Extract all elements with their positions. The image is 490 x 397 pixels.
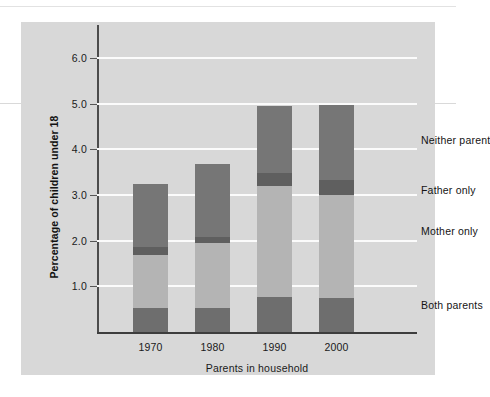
bar-segment xyxy=(133,255,168,308)
bar-segment xyxy=(195,243,230,308)
bar-segment xyxy=(195,164,230,237)
x-axis-line xyxy=(97,332,417,334)
y-axis-tick-label: 4.0 xyxy=(72,143,87,155)
y-axis-tick xyxy=(90,58,97,59)
y-axis-tick xyxy=(90,104,97,105)
legend-label: Father only xyxy=(421,184,476,196)
y-axis-tick xyxy=(90,149,97,150)
y-axis-tick xyxy=(90,286,97,287)
bar-segment xyxy=(133,308,168,332)
bar-segment xyxy=(257,173,292,187)
bar-segment xyxy=(319,180,354,195)
bar-segment xyxy=(133,184,168,247)
x-axis-tick-label: 1980 xyxy=(183,341,243,353)
chart-figure: Percentage of children under 18 1.02.03.… xyxy=(21,22,435,375)
x-axis-tick-label: 2000 xyxy=(307,341,367,353)
legend-label: Mother only xyxy=(421,225,478,237)
legend-label: Both parents xyxy=(421,299,483,311)
bar-segment xyxy=(133,247,168,255)
y-axis-tick-label: 2.0 xyxy=(72,235,87,247)
stacked-bar xyxy=(319,29,354,332)
stacked-bar xyxy=(195,29,230,332)
y-axis-tick xyxy=(90,241,97,242)
stacked-bar xyxy=(257,29,292,332)
y-axis-title: Percentage of children under 18 xyxy=(48,116,60,279)
bar-segment xyxy=(319,195,354,298)
bar-segment xyxy=(257,106,292,173)
legend-label: Neither parent xyxy=(421,134,490,146)
stacked-bar xyxy=(133,29,168,332)
scan-artifact-line-top xyxy=(0,6,456,7)
x-axis-tick-label: 1990 xyxy=(245,341,305,353)
x-axis-tick-label: 1970 xyxy=(121,341,181,353)
bar-segment xyxy=(195,237,230,242)
y-axis-tick-label: 1.0 xyxy=(72,280,87,292)
y-axis-tick-label: 3.0 xyxy=(72,189,87,201)
y-axis-tick xyxy=(90,195,97,196)
y-axis-tick-label: 5.0 xyxy=(72,98,87,110)
bar-segment xyxy=(319,105,354,180)
bar-segment xyxy=(257,186,292,297)
plot-area: 1.02.03.04.05.06.0 1970198019902000 Neit… xyxy=(97,29,417,340)
bar-segment xyxy=(319,298,354,332)
bar-segment xyxy=(257,297,292,332)
y-axis-tick-label: 6.0 xyxy=(72,52,87,64)
bar-segment xyxy=(195,308,230,332)
x-axis-title: Parents in household xyxy=(97,362,417,374)
